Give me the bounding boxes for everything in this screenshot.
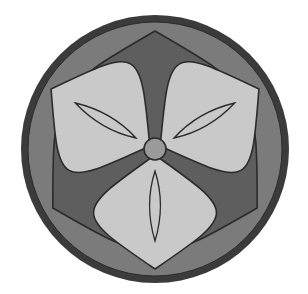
emblem-figure: Circular floral crest emblem dark petald… [0,0,308,294]
center-hub [144,138,166,160]
